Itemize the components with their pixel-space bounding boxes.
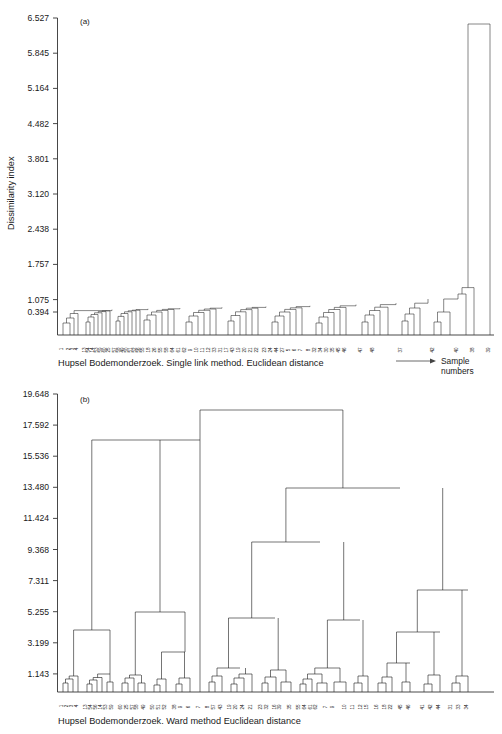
x-tick-label: 59 bbox=[109, 704, 114, 710]
dendrogram-panel-b: 19.648 17.592 15.536 13.480 11.424 9.368… bbox=[0, 380, 502, 734]
x-tick-label: 64 bbox=[170, 347, 175, 353]
x-tick-label: 20 bbox=[233, 704, 238, 710]
x-tick-label: 58 bbox=[164, 347, 169, 353]
x-tick-label: 23 bbox=[258, 704, 263, 710]
y-tick-label: 3.801 bbox=[27, 154, 49, 164]
x-tick-label: 24 bbox=[240, 704, 245, 710]
y-tick-label: 4.482 bbox=[27, 119, 49, 129]
x-tick-label: 45 bbox=[398, 704, 403, 710]
y-tick-label: 5.845 bbox=[27, 48, 49, 58]
x-tick-label: 38 bbox=[172, 704, 177, 710]
x-tick-label: 19 bbox=[227, 704, 232, 710]
y-tick-label: 5.255 bbox=[27, 607, 49, 617]
sample-numbers-label-line2: numbers bbox=[441, 366, 474, 376]
x-tick-label: 40 bbox=[454, 347, 459, 353]
x-tick-label: 10 bbox=[342, 704, 347, 710]
y-tick-label: 1.075 bbox=[27, 295, 49, 305]
x-tick-label: 18 bbox=[382, 704, 387, 710]
x-tick-label: 50 bbox=[150, 704, 155, 710]
x-tick-label: 49 bbox=[141, 704, 146, 710]
x-tick-label: 42 bbox=[428, 704, 433, 710]
x-tick-label: 8 bbox=[306, 348, 311, 351]
panel-a-x-tick-labels: 1 2 3 4 13 54 14 53 59 60 25 57 58 49 50… bbox=[59, 347, 491, 353]
x-tick-label: 46 bbox=[406, 704, 411, 710]
x-tick-label: 52 bbox=[162, 704, 167, 710]
x-tick-label: 33 bbox=[456, 704, 461, 710]
x-tick-label: 57 bbox=[211, 704, 216, 710]
y-tick-label: 19.648 bbox=[23, 389, 50, 399]
x-tick-label: 55 bbox=[296, 704, 301, 710]
x-tick-label: 25 bbox=[124, 704, 129, 710]
x-tick-label: 8 bbox=[205, 705, 210, 708]
x-tick-label: 41 bbox=[420, 704, 425, 710]
y-tick-label: 7.311 bbox=[28, 576, 49, 586]
x-tick-label: 32 bbox=[264, 704, 269, 710]
sample-numbers-label-line1: Sample bbox=[441, 356, 470, 366]
y-tick-label: 9.368 bbox=[27, 545, 49, 555]
y-tick-label: 6.527 bbox=[27, 13, 49, 23]
sample-numbers-annotation: Sample numbers bbox=[396, 356, 474, 376]
x-tick-label: 55 bbox=[158, 347, 163, 353]
x-tick-label: 38 bbox=[470, 347, 475, 353]
x-tick-label: 32 bbox=[312, 347, 317, 353]
annotation-arrow-head bbox=[430, 359, 436, 364]
y-tick-label: 13.480 bbox=[23, 482, 50, 492]
panel-a-y-ticks: 6.527 5.845 5.164 4.482 3.801 3.120 2.43… bbox=[27, 13, 57, 317]
x-tick-label: 25 bbox=[106, 347, 111, 353]
x-tick-label: 62 bbox=[313, 704, 318, 710]
y-tick-label: 3.120 bbox=[27, 189, 49, 199]
x-tick-label: 17 bbox=[224, 347, 229, 353]
x-tick-label: 45 bbox=[336, 347, 341, 353]
x-tick-label: 26 bbox=[152, 347, 157, 353]
x-tick-label: 46 bbox=[342, 347, 347, 353]
x-tick-label: 21 bbox=[248, 704, 253, 710]
x-tick-label: 55 bbox=[140, 347, 145, 353]
x-tick-label: 4 bbox=[74, 704, 79, 707]
panel-a-dendrogram-tree bbox=[63, 24, 490, 335]
x-tick-label: 20 bbox=[242, 347, 247, 353]
x-tick-label: 39 bbox=[486, 347, 491, 353]
x-tick-label: 51 bbox=[156, 704, 161, 710]
x-tick-label: 7 bbox=[196, 705, 201, 708]
x-tick-label: 11 bbox=[350, 704, 355, 709]
x-tick-label: 4 bbox=[74, 347, 79, 350]
x-tick-label: 19 bbox=[236, 347, 241, 353]
x-tick-label: 6 bbox=[186, 705, 191, 708]
x-tick-label: 37 bbox=[398, 347, 403, 353]
y-tick-label: 5.164 bbox=[27, 83, 49, 93]
x-tick-label: 9 bbox=[330, 705, 335, 708]
x-tick-label: 7 bbox=[323, 705, 328, 708]
panel-a-caption: Hupsel Bodemonderzoek. Single link metho… bbox=[58, 358, 324, 368]
x-tick-label: 39 bbox=[277, 704, 282, 710]
panel-b-y-ticks: 19.648 17.592 15.536 13.480 11.424 9.368… bbox=[23, 389, 58, 679]
x-tick-label: 48 bbox=[370, 347, 375, 353]
x-tick-label: 43 bbox=[218, 704, 223, 710]
x-tick-label: 1 bbox=[59, 347, 64, 350]
x-tick-label: 47 bbox=[358, 347, 363, 353]
x-tick-label: 31 bbox=[218, 347, 223, 353]
x-tick-label: 43 bbox=[230, 347, 235, 353]
x-tick-label: 9 bbox=[178, 705, 183, 708]
x-tick-label: 10 bbox=[194, 347, 199, 353]
x-tick-label: 44 bbox=[274, 347, 279, 353]
y-tick-label: 3.199 bbox=[27, 638, 49, 648]
panel-b-dendrogram-tree bbox=[63, 410, 468, 692]
panel-b-letter: (b) bbox=[80, 395, 90, 404]
x-tick-label: 21 bbox=[248, 347, 253, 353]
y-tick-label: 0.394 bbox=[27, 307, 49, 317]
panel-b-x-tick-labels: 1 2 3 4 13 54 56 14 53 59 60 25 57 58 49… bbox=[59, 704, 469, 710]
x-tick-label: 58 bbox=[134, 704, 139, 710]
x-tick-label: 24 bbox=[268, 347, 273, 353]
x-tick-label: 53 bbox=[103, 704, 108, 710]
x-tick-label: 6 bbox=[292, 348, 297, 351]
x-tick-label: 16 bbox=[374, 704, 379, 710]
x-tick-label: 61 bbox=[176, 347, 181, 353]
x-tick-label: 12 bbox=[206, 347, 211, 353]
y-tick-label: 2.438 bbox=[27, 224, 49, 234]
x-tick-label: 64 bbox=[302, 704, 307, 710]
dendrogram-panel-a: 6.527 5.845 5.164 4.482 3.801 3.120 2.43… bbox=[0, 0, 502, 380]
x-tick-label: 12 bbox=[358, 704, 363, 710]
panel-b-caption: Hupsel Bodemonderzoek. Ward method Eucli… bbox=[58, 716, 301, 726]
x-tick-label: 34 bbox=[464, 704, 469, 710]
x-tick-label: 5 bbox=[286, 348, 291, 351]
